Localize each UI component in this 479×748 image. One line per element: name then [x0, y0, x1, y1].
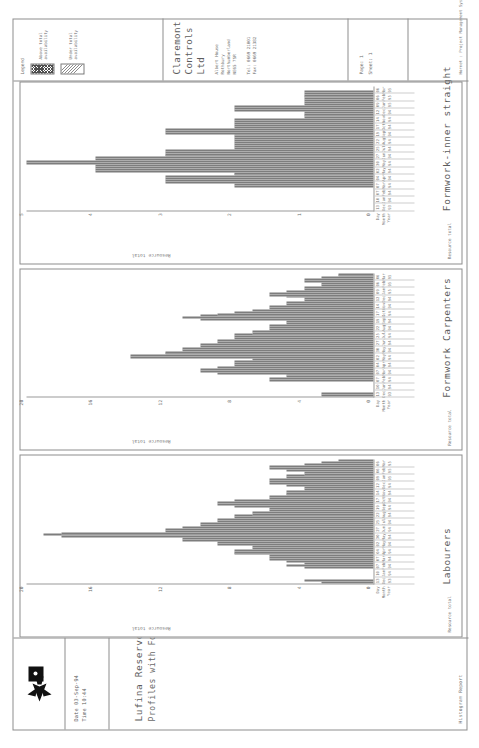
x-tick: 30May94 [374, 346, 414, 353]
title-block: Date 03-Sep-94 Time 10:44 Lufina Reservo… [13, 637, 468, 729]
company-tel: Tel: 0669 21001 [245, 24, 251, 74]
x-tick-gridline [374, 279, 414, 280]
company-address-4: NE65 7SR [231, 24, 237, 74]
chart-formwork-inner-straight: 012345Resource totalDayMonthYear13Dec931… [19, 81, 462, 264]
x-tick: 06Feb95 [374, 467, 414, 474]
x-tick-gridline [374, 129, 414, 130]
x-tick: 07Feb94 [374, 189, 414, 196]
company-address-2: Rothbury [219, 24, 225, 74]
x-tick-gridline [374, 173, 414, 174]
x-axis-band: 13Dec9310Jan9407Feb9407Mar9404Apr9402May… [374, 273, 414, 398]
y-axis-label: Resource total [131, 252, 170, 257]
x-tick-gridline [374, 583, 414, 584]
x-tick-gridline [374, 510, 414, 511]
x-tick: 12Dec94 [374, 108, 414, 115]
x-tick-gridline [374, 323, 414, 324]
resource-total-caption: Resource total [446, 596, 451, 632]
x-axis-header-line: Month [380, 399, 386, 445]
report-time: Time 10:44 [79, 637, 87, 721]
x-tick: 30May94 [374, 533, 414, 540]
y-axis-label: Resource total [131, 438, 170, 443]
x-tick-gridline [374, 144, 414, 145]
x-tick: 07Mar94 [374, 181, 414, 188]
x-axis-header: DayMonthYear [374, 586, 391, 632]
legend-label: Legend [19, 24, 24, 74]
y-tick-label: 12 [157, 399, 162, 405]
legend-swatch-under-icon [60, 63, 84, 74]
x-tick: 09Jan95 [374, 474, 414, 481]
x-tick-gridline [374, 480, 414, 481]
x-tick-gridline [374, 308, 414, 309]
system-credit: Hornet : Project Management Systems [457, 0, 462, 74]
legend: Legend Above total availability Under to… [13, 18, 163, 80]
plot-area-formwork-carpenters: 048121620 [26, 273, 374, 398]
y-tick-label: 1 [296, 213, 301, 216]
x-tick-gridline [374, 524, 414, 525]
histogram-bar [338, 459, 373, 461]
chart-formwork-carpenters: 048121620Resource totalDayMonthYear13Dec… [19, 268, 462, 451]
report-date: Date 03-Sep-94 [71, 637, 79, 721]
y-tick-label: 16 [88, 399, 93, 405]
charts-area: 048121620Resource totalDayMonthYear13Dec… [13, 81, 468, 637]
x-tick: 14Nov94 [374, 489, 414, 496]
legend-item-under: Under total availability [60, 24, 84, 74]
y-tick-label: 4 [296, 399, 301, 402]
resource-total-caption: Resource total [446, 409, 451, 445]
x-tick: 12Dec94 [374, 481, 414, 488]
y-tick-label: 16 [88, 586, 93, 592]
project-title: Lufina Reservoir Scheme [131, 637, 145, 721]
x-tick-gridline [374, 338, 414, 339]
x-tick: 17Oct94 [374, 496, 414, 503]
x-tick-gridline [374, 202, 414, 203]
x-tick-gridline [374, 389, 414, 390]
x-tick: 02May94 [374, 353, 414, 360]
page-block: Page: 1 Sheet: 1 [348, 18, 408, 80]
y-tick-label: 4 [88, 213, 93, 216]
x-tick: 13Dec93 [374, 203, 414, 210]
project-subtitle: Profiles with Formwork Limited [145, 637, 158, 721]
x-tick: 10Jan94 [374, 383, 414, 390]
x-tick-gridline [374, 488, 414, 489]
x-tick: 06Feb95 [374, 93, 414, 100]
sheet-number: Sheet: 1 [365, 24, 374, 74]
x-tick: 06Mar95 [374, 459, 414, 466]
x-tick-gridline [374, 532, 414, 533]
x-tick-gridline [374, 561, 414, 562]
x-tick-gridline [374, 195, 414, 196]
y-tick-label: 0 [366, 399, 371, 402]
company-name: Claremont Controls Ltd [170, 24, 206, 74]
x-tick: 13Dec93 [374, 390, 414, 397]
x-tick: 04Apr94 [374, 361, 414, 368]
landscape-sheet: Date 03-Sep-94 Time 10:44 Lufina Reservo… [12, 18, 467, 730]
x-tick: 07Mar94 [374, 555, 414, 562]
x-tick-gridline [374, 107, 414, 108]
histogram-bar [321, 392, 373, 394]
x-tick: 19Sep94 [374, 130, 414, 137]
x-tick: 22Aug94 [374, 511, 414, 518]
x-tick-gridline [374, 188, 414, 189]
y-tick-label: 4 [296, 586, 301, 589]
x-tick-gridline [374, 301, 414, 302]
x-axis-header-line: Month [380, 586, 386, 632]
x-tick: 25Jul94 [374, 518, 414, 525]
x-tick: 09Jan95 [374, 101, 414, 108]
x-tick-gridline [374, 568, 414, 569]
x-axis-header-line: Year [385, 586, 391, 632]
company-fax: Fax: 0669 21382 [251, 24, 257, 74]
x-tick-gridline [374, 495, 414, 496]
company-address-3: Northumberland [225, 24, 231, 74]
legend-swatch-above-icon [30, 63, 54, 74]
x-tick-gridline [374, 517, 414, 518]
x-tick: 25Jul94 [374, 331, 414, 338]
plot-area-labourers: 048121620 [26, 459, 374, 584]
y-tick-label: 5 [19, 213, 24, 216]
x-tick: 17Oct94 [374, 123, 414, 130]
x-tick: 06Feb95 [374, 280, 414, 287]
x-tick-gridline [374, 136, 414, 137]
x-tick: 06Mar95 [374, 86, 414, 93]
page-title: Lufina Reservoir Scheme Profiles with Fo… [131, 637, 158, 721]
x-axis-header: DayMonthYear [374, 399, 391, 445]
histogram-bar [304, 579, 373, 581]
x-tick-gridline [374, 345, 414, 346]
report-kind-label: Histogram Report [457, 674, 462, 723]
